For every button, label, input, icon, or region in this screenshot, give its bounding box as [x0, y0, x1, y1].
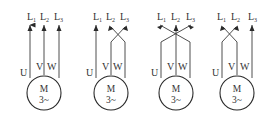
- motor-label: M: [40, 84, 49, 94]
- motor-phase-label: 3~: [106, 95, 116, 105]
- terminal-w: W: [178, 61, 188, 72]
- motor-label: M: [233, 84, 242, 94]
- terminal-v: V: [228, 61, 236, 72]
- terminal-w: W: [240, 61, 250, 72]
- terminal-v: V: [167, 61, 175, 72]
- motor-phase-label: 3~: [232, 95, 242, 105]
- arrow-icon: [28, 25, 33, 31]
- label-l1: L1: [217, 11, 226, 23]
- arrow-icon: [250, 25, 255, 31]
- terminal-w: W: [113, 61, 123, 72]
- label-l2: L2: [231, 11, 240, 23]
- motor-phase-label: 3~: [39, 95, 49, 105]
- arrow-icon: [157, 25, 163, 30]
- diagram-c: L1 L2 L3 U V W M 3~: [151, 11, 195, 110]
- diagram-d: L1 L2 L3 U V W M 3~: [212, 11, 257, 110]
- arrow-icon: [94, 25, 99, 31]
- label-l2: L2: [171, 11, 180, 23]
- motor-label: M: [172, 84, 181, 94]
- label-l3: L3: [54, 11, 63, 23]
- terminal-v: V: [102, 61, 110, 72]
- motor-connection-diagrams: L1 L2 L3 U V W M 3~ L1 L2 L3 U V W M 3~ …: [0, 0, 272, 119]
- label-l3: L3: [120, 11, 129, 23]
- label-l3: L3: [248, 11, 257, 23]
- terminal-u: U: [20, 67, 28, 78]
- arrow-icon: [42, 25, 47, 31]
- label-l3: L3: [186, 11, 195, 23]
- terminal-u: U: [151, 67, 159, 78]
- terminal-w: W: [47, 61, 57, 72]
- motor-label: M: [107, 84, 116, 94]
- arrow-icon: [57, 25, 62, 31]
- diagram-a: L1 L2 L3 U V W M 3~: [20, 11, 63, 110]
- terminal-u: U: [212, 67, 220, 78]
- terminal-v: V: [36, 61, 44, 72]
- label-l1: L1: [157, 11, 166, 23]
- terminal-u: U: [86, 67, 94, 78]
- label-l1: L1: [93, 11, 102, 23]
- label-l2: L2: [40, 11, 49, 23]
- diagram-b: L1 L2 L3 U V W M 3~: [86, 11, 129, 110]
- label-l2: L2: [106, 11, 115, 23]
- label-l1: L1: [27, 11, 36, 23]
- motor-phase-label: 3~: [171, 95, 181, 105]
- arrow-icon: [188, 25, 194, 30]
- arrow-icon: [174, 25, 179, 31]
